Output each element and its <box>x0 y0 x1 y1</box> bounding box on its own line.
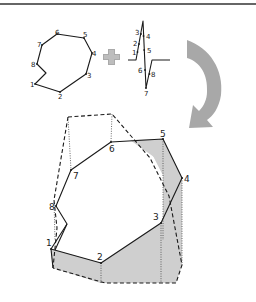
outline-vertex-label-1: 1 <box>30 81 34 89</box>
profile-label-2: 2 <box>133 40 137 48</box>
profile-label-3: 3 <box>135 29 139 37</box>
profile-label-1: 1 <box>132 49 136 57</box>
extruded-vertex-label-2: 2 <box>97 252 103 262</box>
outline-vertex-label-7: 7 <box>37 41 41 49</box>
profile-label-4: 4 <box>146 33 151 41</box>
extruded-vertex-label-7: 7 <box>73 171 79 181</box>
zigzag-profile: 1 2 3 4 5 6 7 8 <box>128 21 170 98</box>
outline-vertex-label-2: 2 <box>58 93 62 101</box>
outline-vertex-label-8: 8 <box>31 61 35 69</box>
extruded-vertex-label-3: 3 <box>153 212 159 222</box>
diagram-canvas: 1 2 3 4 5 6 7 8 1 2 3 4 5 6 7 8 <box>0 0 256 302</box>
outline-polygon: 1 2 3 4 5 6 7 8 <box>30 29 97 101</box>
extruded-vertex-label-1: 1 <box>46 238 52 248</box>
extruded-vertex-label-5: 5 <box>160 129 166 139</box>
plus-icon <box>103 49 120 65</box>
extruded-polygon: 1 2 3 4 5 6 7 8 <box>46 114 190 283</box>
extruded-vertex-label-6: 6 <box>109 144 115 154</box>
outline-vertex-label-6: 6 <box>55 29 60 37</box>
profile-label-6: 6 <box>138 67 143 75</box>
outline-vertex-label-4: 4 <box>92 50 97 58</box>
outline-vertex-label-3: 3 <box>87 72 91 80</box>
profile-label-7: 7 <box>144 90 148 98</box>
curved-arrow-icon <box>187 40 221 128</box>
outline-vertex-label-5: 5 <box>83 31 87 39</box>
extruded-vertex-label-4: 4 <box>184 174 190 184</box>
profile-label-5: 5 <box>147 47 151 55</box>
profile-label-8: 8 <box>151 71 155 79</box>
extruded-vertex-label-8: 8 <box>49 202 55 212</box>
